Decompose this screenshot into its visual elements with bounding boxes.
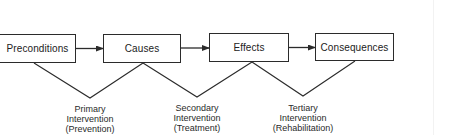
intervention-primary-line-3: (Prevention) (45, 124, 135, 134)
intervention-tertiary-line-1: Tertiary (258, 103, 348, 113)
stage-label-causes: Causes (125, 43, 160, 54)
intervention-secondary-line-1: Secondary (152, 103, 242, 113)
intervention-tertiary-line-2: Intervention (258, 113, 348, 123)
bracket-tertiary-intervention (252, 61, 355, 96)
intervention-secondary-line-2: Intervention (152, 113, 242, 123)
intervention-tertiary-line-3: (Rehabilitation) (258, 123, 348, 133)
stage-label-consequences: Consequences (321, 42, 389, 53)
intervention-label-primary: Primary Intervention (Prevention) (45, 104, 135, 134)
stage-box-causes: Causes (103, 34, 181, 63)
intervention-label-tertiary: Tertiary Intervention (Rehabilitation) (258, 103, 348, 133)
stage-box-effects: Effects (209, 33, 289, 62)
stage-box-preconditions: Preconditions (0, 34, 76, 63)
intervention-primary-line-1: Primary (45, 104, 135, 114)
bracket-primary-intervention (34, 63, 143, 98)
intervention-primary-line-2: Intervention (45, 114, 135, 124)
stage-label-preconditions: Preconditions (7, 43, 69, 54)
intervention-secondary-line-3: (Treatment) (152, 123, 242, 133)
stage-label-effects: Effects (233, 42, 264, 53)
intervention-flow-diagram: Preconditions Causes Effects Consequence… (0, 0, 463, 135)
stage-box-consequences: Consequences (315, 33, 394, 61)
intervention-label-secondary: Secondary Intervention (Treatment) (152, 103, 242, 133)
scan-edge-line (433, 0, 434, 135)
bracket-secondary-intervention (143, 62, 252, 97)
